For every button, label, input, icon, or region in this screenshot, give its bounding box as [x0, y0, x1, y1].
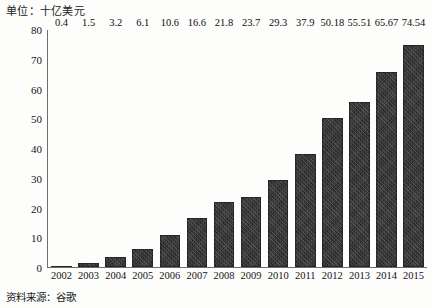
bar-slot: 23.7 — [238, 30, 265, 267]
x-tick-label: 2014 — [373, 270, 400, 281]
bar — [349, 102, 370, 267]
bar-slot: 0.4 — [48, 30, 75, 267]
y-tick-label: 10 — [31, 232, 42, 244]
bar-value-label: 29.3 — [269, 17, 287, 29]
bar — [51, 266, 72, 267]
bar-slot: 3.2 — [102, 30, 129, 267]
bar-slot: 74.54 — [400, 30, 427, 267]
bar-slot: 37.9 — [292, 30, 319, 267]
y-tick-label: 50 — [31, 113, 42, 125]
bar — [241, 197, 262, 268]
y-tick-label: 70 — [31, 54, 42, 66]
bar-slot: 29.3 — [265, 30, 292, 267]
x-tick-label: 2006 — [156, 270, 183, 281]
x-tick-label: 2005 — [129, 270, 156, 281]
bar — [160, 235, 181, 267]
bar-value-label: 74.54 — [402, 17, 426, 29]
bar-value-label: 23.7 — [242, 17, 260, 29]
y-tick-label: 60 — [31, 84, 42, 96]
bar-value-label: 16.6 — [188, 17, 206, 29]
bar — [403, 45, 424, 267]
source-note: 资料来源：谷歌 — [6, 289, 76, 304]
bar — [132, 249, 153, 267]
y-tick-label: 80 — [31, 24, 42, 36]
bar-value-label: 65.67 — [375, 17, 399, 29]
x-tick-label: 2003 — [75, 270, 102, 281]
x-axis-line — [47, 267, 427, 268]
bar — [268, 180, 289, 267]
x-tick-label: 2010 — [265, 270, 292, 281]
bar — [187, 218, 208, 267]
y-tick-label: 0 — [37, 262, 43, 274]
bar-value-label: 37.9 — [296, 17, 314, 29]
bar-slot: 65.67 — [373, 30, 400, 267]
x-tick-label: 2011 — [292, 270, 319, 281]
y-tick-label: 40 — [31, 143, 42, 155]
x-tick-label: 2008 — [210, 270, 237, 281]
bar-value-label: 55.51 — [348, 17, 372, 29]
x-tick-label: 2004 — [102, 270, 129, 281]
x-tick-label: 2009 — [238, 270, 265, 281]
bar-slot: 6.1 — [129, 30, 156, 267]
bar-value-label: 0.4 — [55, 17, 68, 29]
bar — [105, 257, 126, 267]
bar-value-label: 3.2 — [109, 17, 122, 29]
bar — [214, 202, 235, 267]
bar-value-label: 21.8 — [215, 17, 233, 29]
x-axis-tick-labels: 2002200320042005200620072008200920102011… — [48, 270, 427, 281]
bar-slot: 55.51 — [346, 30, 373, 267]
y-tick-label: 30 — [31, 173, 42, 185]
bar-value-label: 50.18 — [321, 17, 345, 29]
bar-value-label: 10.6 — [161, 17, 179, 29]
y-tick-label: 20 — [31, 203, 42, 215]
bar-value-label: 6.1 — [136, 17, 149, 29]
plot-area: 01020304050607080 0.41.53.26.110.616.621… — [47, 30, 427, 268]
chart-title: 单位：十亿美元 — [6, 2, 85, 18]
bar-slot: 50.18 — [319, 30, 346, 267]
x-tick-label: 2012 — [319, 270, 346, 281]
chart-page: 单位：十亿美元 01020304050607080 0.41.53.26.110… — [0, 0, 433, 308]
bar — [322, 118, 343, 267]
bar — [295, 154, 316, 267]
x-tick-label: 2002 — [48, 270, 75, 281]
x-tick-label: 2013 — [346, 270, 373, 281]
bar-series: 0.41.53.26.110.616.621.823.729.337.950.1… — [48, 30, 427, 267]
bar-slot: 10.6 — [156, 30, 183, 267]
bar-slot: 1.5 — [75, 30, 102, 267]
bar-slot: 16.6 — [183, 30, 210, 267]
bar-value-label: 1.5 — [82, 17, 95, 29]
bar — [376, 72, 397, 267]
bar-slot: 21.8 — [210, 30, 237, 267]
x-tick-label: 2015 — [400, 270, 427, 281]
bar — [78, 263, 99, 267]
x-tick-label: 2007 — [183, 270, 210, 281]
